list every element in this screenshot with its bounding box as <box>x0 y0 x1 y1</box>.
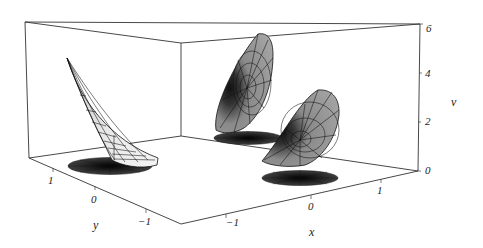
x-tick-minus1: −1 <box>226 216 239 228</box>
v-axis-label: v <box>451 95 457 109</box>
x-tick-1: 1 <box>377 184 383 196</box>
v-tick-0: 0 <box>425 164 431 176</box>
y-axis-label: y <box>92 218 99 232</box>
v-axis-labels: 0 2 4 6 v <box>425 22 457 176</box>
x-tick-0: 0 <box>308 200 314 212</box>
v-tick-4: 4 <box>425 67 431 79</box>
x-axis-label: x <box>308 225 315 239</box>
y-tick-0: 0 <box>91 193 97 205</box>
y-axis-labels: 1 0 −1 y <box>48 174 151 232</box>
right-surface <box>262 90 339 167</box>
middle-surface <box>216 34 273 133</box>
v-tick-6: 6 <box>426 22 432 34</box>
v-tick-2: 2 <box>425 115 431 127</box>
y-tick-1: 1 <box>48 174 54 186</box>
surface-plot-3d: 1 0 −1 y −1 0 1 x 0 2 4 6 v <box>0 0 483 248</box>
x-axis-labels: −1 0 1 x <box>226 184 383 239</box>
y-tick-minus1: −1 <box>138 215 151 227</box>
